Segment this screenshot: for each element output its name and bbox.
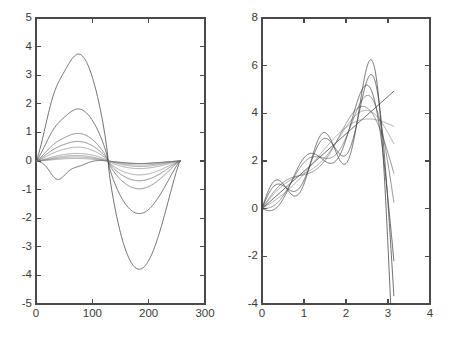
right-curve-family — [262, 60, 394, 304]
left-xticklabel: 200 — [139, 307, 158, 319]
right-yticklabel: 6 — [252, 59, 258, 71]
chart-panel-left: 5 4 3 2 1 0 -1 -2 -3 -4 -5 0 100 200 300 — [0, 0, 226, 339]
right-curve-7 — [262, 60, 394, 304]
right-curve-3 — [262, 106, 394, 208]
chart-panel-right: 8 6 4 2 0 -2 -4 0 1 2 3 4 — [226, 0, 452, 339]
right-curve-6 — [262, 75, 394, 296]
right-y-ticklabels: 8 6 4 2 0 -2 -4 — [248, 11, 259, 309]
left-y-ticklabels: 5 4 3 2 1 0 -1 -2 -3 -4 -5 — [22, 11, 33, 309]
left-yticklabel: 1 — [26, 125, 32, 137]
left-x-ticklabels: 0 100 200 300 — [33, 307, 215, 319]
left-yticklabel: -4 — [22, 268, 33, 280]
right-yticklabel: 4 — [252, 106, 259, 118]
right-plot-svg: 8 6 4 2 0 -2 -4 0 1 2 3 4 — [226, 0, 452, 339]
right-yticklabel: 2 — [252, 154, 258, 166]
left-yticklabel: -1 — [22, 183, 32, 195]
right-xticklabel: 4 — [427, 307, 434, 319]
left-yticklabel: 4 — [26, 40, 33, 52]
right-yticklabel: -2 — [248, 249, 258, 261]
right-x-ticklabels: 0 1 2 3 4 — [259, 307, 434, 319]
figure-canvas: 5 4 3 2 1 0 -1 -2 -3 -4 -5 0 100 200 300 — [0, 0, 452, 339]
right-axes-frame — [262, 18, 430, 304]
left-curve-family — [36, 54, 180, 269]
right-xticklabel: 3 — [385, 307, 391, 319]
left-yticklabel: -3 — [22, 240, 32, 252]
right-xticklabel: 2 — [343, 307, 349, 319]
left-xticklabel: 100 — [83, 307, 102, 319]
right-xticklabel: 0 — [259, 307, 265, 319]
right-curve-2 — [262, 110, 394, 208]
right-x-ticks — [262, 18, 430, 304]
right-y-ticks — [262, 18, 430, 304]
left-curve-6 — [36, 54, 180, 269]
left-plot-svg: 5 4 3 2 1 0 -1 -2 -3 -4 -5 0 100 200 300 — [0, 0, 226, 339]
right-yticklabel: 8 — [252, 11, 258, 23]
right-yticklabel: -4 — [248, 297, 259, 309]
left-yticklabel: 5 — [26, 11, 32, 23]
right-curve-1 — [262, 119, 394, 209]
right-xticklabel: 1 — [301, 307, 307, 319]
left-yticklabel: 0 — [26, 154, 32, 166]
right-ramp-baseline — [262, 91, 394, 209]
left-yticklabel: 3 — [26, 68, 32, 80]
left-yticklabel: -2 — [22, 211, 32, 223]
left-xticklabel: 300 — [195, 307, 214, 319]
left-yticklabel: -5 — [22, 297, 32, 309]
left-xticklabel: 0 — [33, 307, 39, 319]
right-yticklabel: 0 — [252, 202, 258, 214]
right-curve-4 — [262, 95, 394, 208]
left-yticklabel: 2 — [26, 97, 32, 109]
right-curve-5 — [262, 85, 394, 261]
